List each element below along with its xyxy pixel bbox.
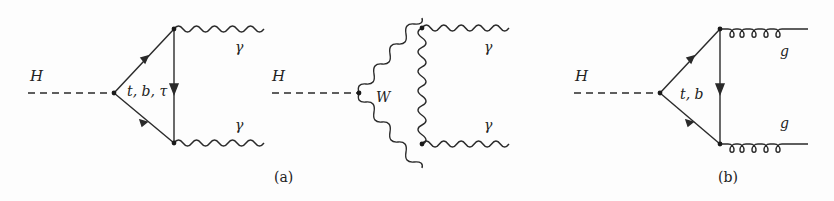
photon-label: γ [484, 39, 493, 55]
vertex-dot [718, 142, 723, 147]
caption-a: (a) [274, 169, 293, 185]
vertex-dot [420, 142, 425, 147]
arrow-upper-icon [141, 56, 148, 63]
feynman-figure: H t, b, τ γ γ H W γ γ (a) H t, b g g (b) [0, 0, 834, 201]
arrow-vertical-icon [716, 84, 724, 94]
higgs-label: H [29, 67, 44, 85]
gluon-line-upper [720, 29, 808, 37]
photon-line-lower [174, 140, 264, 146]
loop-label: W [376, 89, 392, 105]
gluon-label: g [780, 43, 789, 59]
arrow-vertical-icon [170, 84, 178, 94]
gluon-line-lower [720, 144, 808, 152]
diagram-w-loop-photons [272, 18, 509, 168]
photon-line-upper [174, 26, 264, 32]
photon-label: γ [235, 117, 244, 133]
caption-b: (b) [718, 169, 738, 185]
higgs-label: H [271, 67, 286, 85]
photon-line-upper [422, 25, 509, 31]
feynman-diagrams: H t, b, τ γ γ H W γ γ (a) H t, b g g (b) [0, 0, 834, 201]
arrow-upper-icon [687, 56, 694, 63]
w-boson-line-upper [358, 18, 422, 93]
vertex-dot [172, 27, 177, 32]
vertex-dot [172, 141, 177, 146]
photon-line-lower [422, 141, 509, 147]
photon-label: γ [235, 39, 244, 55]
vertex-dot [658, 91, 663, 96]
loop-label: t, b [680, 86, 704, 102]
gluon-label: g [780, 115, 789, 131]
vertex-dot [112, 91, 117, 96]
higgs-label: H [574, 67, 589, 85]
w-boson-line-vertical [418, 28, 426, 144]
vertex-dot [357, 91, 362, 96]
vertex-dot [420, 26, 425, 31]
photon-label: γ [484, 117, 493, 133]
loop-label: t, b, τ [127, 83, 167, 99]
fermion-line-lower [114, 93, 174, 143]
vertex-dot [718, 27, 723, 32]
arrow-lower-icon [140, 120, 147, 126]
